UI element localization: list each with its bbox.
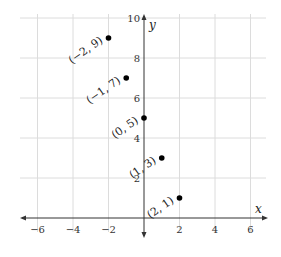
data-point bbox=[177, 195, 183, 201]
y-tick-label: 10 bbox=[127, 13, 140, 24]
x-tick-label: −2 bbox=[101, 224, 116, 235]
y-axis-up-arrow-icon bbox=[142, 14, 147, 20]
point-labels: (−2, 9)(−1, 7)(0, 5)(1, 3)(2, 1) bbox=[66, 34, 176, 222]
axes bbox=[20, 14, 268, 238]
x-tick-label: 4 bbox=[212, 224, 218, 235]
x-tick-label: 2 bbox=[176, 224, 182, 235]
y-axis-down-arrow-icon bbox=[142, 232, 147, 238]
data-point bbox=[106, 35, 112, 41]
point-label: (1, 3) bbox=[127, 154, 159, 182]
x-axis-right-arrow-icon bbox=[262, 216, 268, 221]
y-tick-label: 6 bbox=[134, 93, 140, 104]
x-tick-label: 6 bbox=[247, 224, 253, 235]
x-axis-left-arrow-icon bbox=[20, 216, 26, 221]
data-point bbox=[141, 115, 147, 121]
grid-lines bbox=[20, 14, 266, 232]
point-label: (−1, 7) bbox=[84, 74, 123, 107]
y-tick-label: 4 bbox=[134, 133, 140, 144]
y-axis-label: y bbox=[148, 18, 156, 32]
tick-labels: −6−4−2246246810 bbox=[30, 13, 254, 235]
x-axis-label: x bbox=[255, 202, 262, 216]
x-tick-label: −6 bbox=[30, 224, 45, 235]
point-label: (2, 1) bbox=[145, 194, 177, 222]
point-label: (−2, 9) bbox=[66, 34, 105, 67]
data-point bbox=[159, 155, 165, 161]
x-tick-label: −4 bbox=[66, 224, 81, 235]
y-tick-label: 8 bbox=[134, 53, 140, 64]
scatter-chart: −6−4−2246246810 (−2, 9)(−1, 7)(0, 5)(1, … bbox=[0, 0, 281, 257]
data-point bbox=[123, 75, 129, 81]
